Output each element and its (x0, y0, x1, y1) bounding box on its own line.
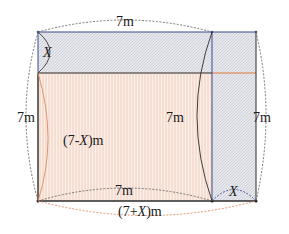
right-height-label: 7m (253, 110, 271, 125)
top-length-label: 7m (116, 14, 134, 29)
x-variable: X (78, 133, 88, 148)
inner-height-label: 7m (166, 110, 184, 125)
bottom-right-width-label: X (228, 184, 238, 199)
x-variable: X (137, 204, 147, 219)
geometry-diagram: 7m X 7m (7-X)m 7m 7m 7m (7+X)m X (0, 0, 289, 234)
top-strip-height-label: X (42, 45, 52, 60)
left-height-label: 7m (17, 110, 35, 125)
top-strip-region (38, 32, 212, 73)
bottom-total-length-label: (7+X)m (118, 204, 162, 220)
right-strip-region (212, 32, 256, 201)
bottom-inner-length-label: 7m (115, 183, 133, 198)
inner-region-label: (7-X)m (63, 133, 104, 149)
